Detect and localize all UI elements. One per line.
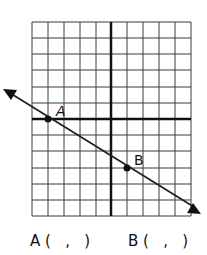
point-a (45, 116, 52, 123)
answer-a[interactable]: A ( , ) (30, 232, 90, 250)
point-a-label: A (55, 103, 66, 119)
arrow-head-left-icon (3, 89, 17, 100)
answer-b[interactable]: B ( , ) (128, 232, 188, 250)
point-b-label: B (134, 152, 144, 168)
point-b (124, 165, 131, 172)
coordinate-grid: A B (0, 0, 207, 255)
graphed-line (10, 93, 194, 207)
